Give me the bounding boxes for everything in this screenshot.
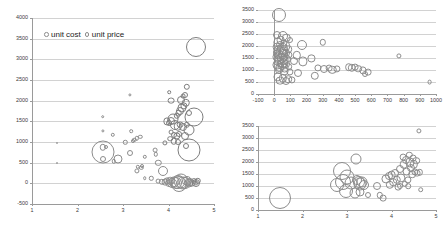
data-bubble bbox=[310, 72, 318, 80]
data-bubble bbox=[138, 135, 142, 139]
x-tickmark bbox=[404, 94, 405, 96]
y-tickmark bbox=[256, 82, 258, 83]
x-tickmark bbox=[323, 94, 324, 96]
data-bubble bbox=[158, 166, 168, 176]
y-axis-tick-label: 3500 bbox=[0, 36, 28, 41]
data-bubble bbox=[427, 80, 432, 85]
x-axis-tick-label: 1000 bbox=[430, 98, 442, 103]
x-axis-tick-label: 2 bbox=[76, 208, 79, 213]
x-tickmark bbox=[387, 94, 388, 96]
y-axis-tick-label: 0 bbox=[228, 207, 254, 212]
x-axis-tick-label: 5 bbox=[435, 214, 438, 219]
x-tickmark bbox=[78, 204, 79, 206]
y-axis-tick-label: 500 bbox=[228, 79, 254, 84]
data-bubble bbox=[299, 57, 308, 66]
data-bubble bbox=[140, 164, 144, 168]
data-bubble bbox=[56, 162, 58, 164]
y-axis-tick-label: 3500 bbox=[228, 7, 254, 12]
x-axis-tick-label: 4 bbox=[167, 208, 170, 213]
data-bubble bbox=[178, 139, 201, 162]
circle-outline-icon bbox=[44, 32, 49, 37]
y-axis-tick-label: 3000 bbox=[228, 135, 254, 140]
x-axis-tick-label: 4 bbox=[390, 214, 393, 219]
gridline bbox=[32, 59, 214, 60]
x-tickmark bbox=[303, 210, 304, 212]
circle-outline-icon bbox=[85, 32, 90, 37]
data-bubble bbox=[416, 128, 421, 133]
x-axis-tick-label: 600 bbox=[367, 98, 376, 103]
data-bubble bbox=[123, 140, 127, 144]
x-tickmark bbox=[258, 210, 259, 212]
y-axis-tick-label: 0 bbox=[228, 91, 254, 96]
x-tickmark bbox=[347, 210, 348, 212]
x-axis-tick-label: 500 bbox=[351, 98, 360, 103]
y-axis-tick-label: 2000 bbox=[0, 98, 28, 103]
x-axis-tick-label: 1 bbox=[31, 208, 34, 213]
x-tickmark bbox=[436, 94, 437, 96]
y-tickmark bbox=[256, 10, 258, 11]
gridline bbox=[258, 138, 436, 139]
data-bubble bbox=[334, 65, 341, 72]
y-axis-line bbox=[32, 18, 33, 204]
x-tickmark bbox=[420, 94, 421, 96]
y-axis-tick-label: 500 bbox=[0, 160, 28, 165]
data-bubble bbox=[269, 187, 291, 209]
data-bubble bbox=[186, 37, 206, 57]
x-axis-tick-label: 800 bbox=[399, 98, 408, 103]
x-tickmark bbox=[339, 94, 340, 96]
x-tickmark bbox=[169, 204, 170, 206]
data-bubble bbox=[350, 153, 361, 164]
data-bubble bbox=[149, 176, 153, 180]
x-tickmark bbox=[274, 94, 275, 96]
chart-legend: unit cost unit price bbox=[44, 30, 124, 39]
data-bubble bbox=[129, 129, 133, 133]
gridline bbox=[258, 22, 436, 23]
data-bubble bbox=[168, 91, 172, 95]
y-axis-tick-label: 1000 bbox=[228, 183, 254, 188]
data-bubble bbox=[272, 8, 286, 22]
y-axis-tick-label: 2000 bbox=[228, 43, 254, 48]
x-tickmark bbox=[307, 94, 308, 96]
y-tickmark bbox=[256, 22, 258, 23]
chart-panel-left: unit cost unit price -500050010001500200… bbox=[0, 0, 228, 233]
y-axis-tick-label: 2500 bbox=[0, 77, 28, 82]
gridline bbox=[32, 163, 214, 164]
data-bubble bbox=[114, 154, 123, 163]
plot-area-left bbox=[32, 18, 214, 204]
y-axis-tick-label: 1000 bbox=[0, 139, 28, 144]
data-bubble bbox=[143, 176, 147, 180]
data-bubble bbox=[101, 115, 105, 119]
y-axis-tick-label: 2000 bbox=[228, 159, 254, 164]
gridline bbox=[32, 80, 214, 81]
data-bubble bbox=[104, 145, 108, 149]
y-axis-tick-label: 0 bbox=[0, 181, 28, 186]
data-bubble bbox=[356, 187, 365, 196]
y-axis-tick-label: 1000 bbox=[228, 67, 254, 72]
x-axis-tick-label: 0 bbox=[273, 98, 276, 103]
y-axis-tick-label: 1500 bbox=[228, 55, 254, 60]
scatter-chart-bottom-right: 050010001500200025003000350012345 bbox=[228, 114, 448, 233]
x-axis-tick-label: 900 bbox=[415, 98, 424, 103]
y-tickmark bbox=[256, 46, 258, 47]
data-bubble bbox=[111, 132, 115, 136]
data-bubble bbox=[286, 68, 293, 75]
data-bubble bbox=[418, 187, 424, 193]
y-axis-tick-label: 2500 bbox=[228, 31, 254, 36]
x-tickmark bbox=[258, 94, 259, 96]
x-tickmark bbox=[290, 94, 291, 96]
y-axis-tick-label: -500 bbox=[0, 201, 28, 206]
y-axis-tick-label: 3500 bbox=[228, 123, 254, 128]
data-bubble bbox=[297, 40, 307, 50]
x-tickmark bbox=[392, 210, 393, 212]
data-bubble bbox=[373, 182, 381, 190]
gridline bbox=[32, 18, 214, 19]
data-bubble bbox=[143, 155, 147, 159]
x-axis-tick-label: 100 bbox=[286, 98, 295, 103]
x-axis-tick-label: -100 bbox=[253, 98, 264, 103]
plot-area-top-right bbox=[258, 10, 436, 94]
x-tickmark bbox=[214, 204, 215, 206]
data-bubble bbox=[155, 159, 161, 165]
data-bubble bbox=[167, 97, 174, 104]
gridline bbox=[258, 126, 436, 127]
chart-panel-top-right: 0500100015002000250030003500-10001002003… bbox=[228, 0, 448, 119]
